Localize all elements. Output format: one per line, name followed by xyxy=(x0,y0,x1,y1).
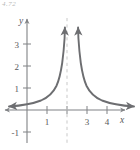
x-tick-labels: 1 3 4 xyxy=(45,117,110,127)
y-tick-label-1: 1 xyxy=(15,84,20,94)
y-tick-label-3: 3 xyxy=(15,40,20,50)
figure-container: 4.72 xyxy=(0,0,140,150)
y-tick-label-2: 2 xyxy=(15,62,20,72)
x-axis-label: x xyxy=(119,115,125,125)
x-tick-label-3: 3 xyxy=(85,117,90,127)
x-tick-label-4: 4 xyxy=(105,117,110,127)
x-tick-label-1: 1 xyxy=(45,117,50,127)
y-axis-label: y xyxy=(18,16,24,26)
y-tick-label-minus-1: -1 xyxy=(12,128,20,138)
function-graph: 1 3 4 1 2 3 -1 x y xyxy=(0,0,140,150)
curve-right-branch xyxy=(78,28,134,107)
y-tick-labels: 1 2 3 -1 xyxy=(12,40,20,138)
